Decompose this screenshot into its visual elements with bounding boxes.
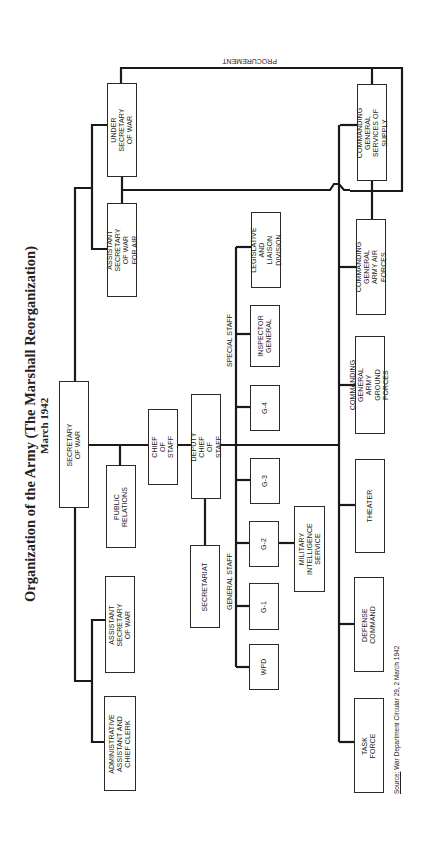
box-label: THEATER [366, 490, 374, 523]
box-inspector-general[interactable]: INSPECTOR GENERAL [250, 305, 280, 367]
box-label: G-1 [260, 601, 268, 613]
box-label: MILITARY INTELLIGENCE SERVICE [297, 523, 322, 575]
box-g3[interactable]: G-3 [250, 458, 280, 504]
box-wpd[interactable]: WPD [249, 644, 279, 690]
box-label: UNDER SECRETARY OF WAR [110, 108, 135, 151]
source-note: Source: War Department Circular 29, 2 Ma… [393, 646, 400, 794]
box-label: SECRETARIAT [201, 562, 209, 611]
box-theater[interactable]: THEATER [355, 459, 385, 553]
box-label: TASK FORCE [361, 733, 377, 758]
source-text: War Department Circular 29, 2 March 1942 [393, 646, 400, 772]
box-cg-army-air-forces[interactable]: COMMANDING GENERAL ARMY AIR FORCES [356, 219, 386, 315]
box-label: ASSISTANT SECRETARY OF WAR [108, 603, 133, 646]
procurement-label: PROCUREMENT [222, 58, 277, 65]
special-staff-label: SPECIAL STAFF [226, 314, 233, 367]
box-label: INSPECTOR GENERAL [257, 315, 273, 357]
box-legislative-liaison-division[interactable]: LEGISLATIVE AND LIAISON DIVISION [251, 212, 281, 288]
box-label: COMMANDING GENERAL SERVICES OF SUPPLY [356, 107, 389, 157]
box-label: ASSISTANT SECRETARY OF WAR FOR AIR [106, 228, 139, 271]
chart-title: Organization of the Army (The Marshall R… [22, 246, 39, 602]
source-prefix: Source: [393, 772, 400, 794]
box-secretary-of-war[interactable]: SECRETARY OF WAR [59, 381, 89, 508]
general-staff-label: GENERAL STAFF [226, 553, 233, 610]
box-label: SECRETARY OF WAR [66, 423, 82, 466]
box-administrative-assistant[interactable]: ADMINISTRATIVE ASSISTANT AND CHIEF CLERK [104, 696, 136, 791]
box-label: G-4 [261, 402, 269, 414]
box-label: WPD [260, 659, 268, 676]
box-task-force[interactable]: TASK FORCE [354, 698, 384, 793]
box-g1[interactable]: G-1 [249, 583, 279, 630]
box-chief-of-staff[interactable]: CHIEF OF STAFF [148, 409, 178, 485]
box-military-intelligence-service[interactable]: MILITARY INTELLIGENCE SERVICE [294, 506, 325, 592]
chart-subtitle: March 1942 [38, 398, 50, 454]
box-public-relations[interactable]: PUBLIC RELATIONS [106, 465, 136, 548]
box-label: DEFENSE COMMAND [361, 606, 377, 644]
box-label: DEPUTY CHIEF OF STAFF [190, 432, 223, 461]
box-g2[interactable]: G-2 [249, 521, 279, 567]
box-label: G-2 [260, 538, 268, 550]
box-label: LEGISLATIVE AND LIAISON DIVISION [250, 227, 283, 272]
box-g4[interactable]: G-4 [250, 385, 280, 431]
box-cg-services-of-supply[interactable]: COMMANDING GENERAL SERVICES OF SUPPLY [357, 84, 387, 181]
box-label: PUBLIC RELATIONS [113, 486, 129, 526]
box-assistant-secretary-of-war[interactable]: ASSISTANT SECRETARY OF WAR [105, 576, 135, 673]
box-defense-command[interactable]: DEFENSE COMMAND [354, 577, 384, 672]
box-cg-army-ground-forces[interactable]: COMMANDING GENERAL ARMY GROUND FORCES [355, 336, 385, 434]
box-under-secretary-of-war[interactable]: UNDER SECRETARY OF WAR [107, 83, 137, 177]
box-label: COMMANDING GENERAL ARMY AIR FORCES [355, 242, 388, 292]
box-label: G-3 [261, 475, 269, 487]
box-label: ADMINISTRATIVE ASSISTANT AND CHIEF CLERK [108, 714, 133, 774]
box-assistant-secretary-of-war-for-air[interactable]: ASSISTANT SECRETARY OF WAR FOR AIR [107, 203, 137, 297]
box-label: COMMANDING GENERAL ARMY GROUND FORCES [349, 360, 390, 410]
box-deputy-chief-of-staff[interactable]: DEPUTY CHIEF OF STAFF [191, 394, 221, 499]
box-label: CHIEF OF STAFF [151, 436, 176, 458]
box-secretariat[interactable]: SECRETARIAT [190, 545, 220, 628]
